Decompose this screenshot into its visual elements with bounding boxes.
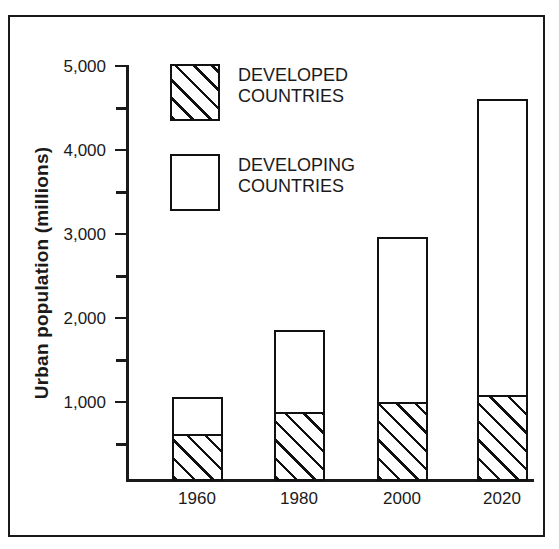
bar-1960-developing: [172, 397, 223, 436]
bar-2020-developed: [477, 395, 528, 481]
y-tick-label-1000: 1,000: [36, 394, 106, 411]
y-tick-major-5000: [115, 65, 129, 67]
y-tick-minor-4500: [116, 107, 128, 110]
y-tick-label-2000: 2,000: [36, 310, 106, 327]
x-tick-label-2000: 2000: [362, 489, 442, 509]
bar-1980-developing: [274, 330, 325, 414]
empty-square-icon: [170, 154, 220, 211]
y-tick-minor-1500: [116, 359, 128, 362]
x-tick-label-2020: 2020: [462, 489, 542, 509]
legend-label-developed-line1: DEVELOPED: [238, 65, 348, 86]
y-tick-label-4000: 4,000: [36, 142, 106, 159]
y-tick-label-3000: 3,000: [36, 226, 106, 243]
y-tick-minor-3500: [116, 191, 128, 194]
chart-frame: Urban population (millions) 5,000 4,000 …: [8, 15, 545, 537]
bar-2020-developing: [477, 99, 528, 397]
y-tick-minor-500: [116, 443, 128, 446]
y-tick-minor-2500: [116, 275, 128, 278]
plot-area: Urban population (millions) 5,000 4,000 …: [10, 17, 543, 535]
y-tick-major-2000: [115, 317, 129, 319]
x-tick-label-1960: 1960: [157, 489, 237, 509]
bar-2000-developed: [377, 402, 428, 481]
bar-1960-developed: [172, 434, 223, 481]
hatched-square-icon: [170, 64, 220, 121]
y-tick-major-1000: [115, 401, 129, 403]
legend-label-developed-line2: COUNTRIES: [238, 86, 344, 107]
y-tick-label-5000: 5,000: [36, 58, 106, 75]
bar-1980-developed: [274, 412, 325, 481]
bar-2000-developing: [377, 237, 428, 404]
chart-page: Urban population (millions) 5,000 4,000 …: [0, 0, 559, 549]
y-tick-major-3000: [115, 233, 129, 235]
y-tick-major-4000: [115, 149, 129, 151]
x-tick-label-1980: 1980: [259, 489, 339, 509]
legend-label-developing-line1: DEVELOPING: [238, 155, 355, 176]
legend-label-developing-line2: COUNTRIES: [238, 176, 344, 197]
